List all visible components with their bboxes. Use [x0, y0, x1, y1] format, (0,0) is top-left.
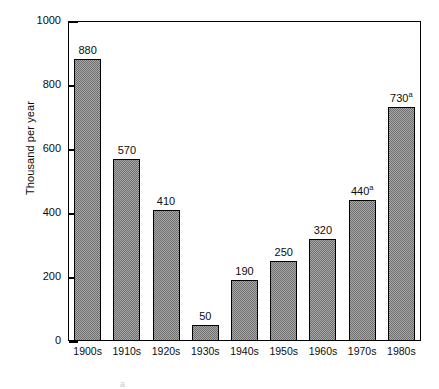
x-axis-labels: 1900s1910s1920s1930s1940s1950s1960s1970s…: [68, 345, 421, 361]
bar-group-1960s: 320: [309, 21, 336, 341]
bar-group-1950s: 250: [270, 21, 297, 341]
bar-value-label-1930s: 50: [178, 310, 233, 322]
bar-1900s: [74, 59, 101, 341]
bar-1940s: [231, 280, 258, 341]
bar-1970s: [349, 200, 376, 341]
x-tick-label-1910s: 1910s: [107, 345, 146, 357]
y-tick-label: 800: [43, 78, 61, 90]
bar-group-1910s: 570: [113, 21, 140, 341]
bar-group-1970s: 440a: [349, 21, 376, 341]
bar-value-label-1980s: 730a: [374, 92, 429, 104]
x-tick-label-1960s: 1960s: [303, 345, 342, 357]
footnote-marker: a: [120, 379, 125, 389]
bar-group-1900s: 880: [74, 21, 101, 341]
bar-series: 88057041050190250320440a730a: [68, 21, 421, 341]
y-tick-label: 1000: [37, 14, 61, 26]
x-tick-label-1950s: 1950s: [264, 345, 303, 357]
bar-value-label-1970s: 440a: [335, 185, 390, 197]
y-tick-label: 200: [43, 270, 61, 282]
bar-1930s: [192, 325, 219, 341]
bar-1950s: [270, 261, 297, 341]
x-tick-label-1940s: 1940s: [225, 345, 264, 357]
bar-group-1980s: 730a: [388, 21, 415, 341]
bar-value-footnote: a: [369, 184, 373, 193]
bar-value-footnote: a: [408, 91, 412, 100]
bar-1960s: [309, 239, 336, 341]
bar-1910s: [113, 159, 140, 341]
x-tick-label-1920s: 1920s: [146, 345, 185, 357]
y-tick-label: 600: [43, 142, 61, 154]
x-tick-label-1970s: 1970s: [343, 345, 382, 357]
bar-value-label-1960s: 320: [295, 224, 350, 236]
bar-value-label-1940s: 190: [217, 265, 272, 277]
x-tick-label-1980s: 1980s: [382, 345, 421, 357]
bar-group-1940s: 190: [231, 21, 258, 341]
bar-value-label-1920s: 410: [139, 195, 194, 207]
bar-value-label-1950s: 250: [256, 246, 311, 258]
bar-1920s: [153, 210, 180, 341]
y-tick-label: 0: [55, 334, 61, 346]
y-axis-title: Thousand per year: [24, 58, 36, 238]
bar-value-label-1910s: 570: [99, 144, 154, 156]
y-tick-label: 400: [43, 206, 61, 218]
bar-group-1920s: 410: [153, 21, 180, 341]
bar-group-1930s: 50: [192, 21, 219, 341]
x-tick-label-1900s: 1900s: [68, 345, 107, 357]
bar-value-label-1900s: 880: [60, 44, 115, 56]
bar-1980s: [388, 107, 415, 341]
x-tick-label-1930s: 1930s: [186, 345, 225, 357]
y-tick-mark: [69, 341, 78, 343]
